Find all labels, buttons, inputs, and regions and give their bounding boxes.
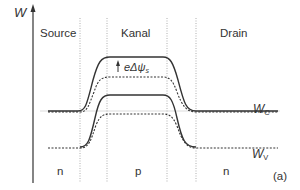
delta-psi-annotation: eΔψs [116, 60, 150, 74]
valence-band-solid [80, 95, 196, 147]
region-label-source: Source [40, 27, 76, 39]
region-label-kanal: Kanal [121, 27, 150, 39]
doping-label-source: n [57, 165, 63, 177]
conduction-band-label: WC [253, 102, 270, 117]
region-dividers [80, 18, 196, 183]
figure-tag: (a) [273, 170, 287, 182]
valence-band-dashed [48, 114, 278, 148]
arrow-up-icon [116, 60, 120, 66]
doping-label-drain: n [223, 165, 229, 177]
y-axis [31, 4, 36, 183]
y-axis-label: W [14, 5, 28, 20]
svg-text:eΔψs: eΔψs [124, 61, 150, 74]
doping-label-kanal: p [135, 165, 141, 177]
arrow-up-icon [31, 4, 36, 12]
conduction-band-solid [48, 57, 278, 111]
region-label-drain: Drain [220, 27, 247, 39]
valence-band-label: WV [252, 147, 268, 162]
band-diagram: W Source Kanal Drain eΔψs WC WV n p n (a… [0, 0, 300, 190]
